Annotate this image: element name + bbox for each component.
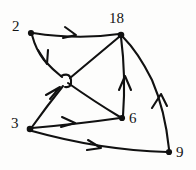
node-label-3: 3 bbox=[11, 116, 19, 131]
node-label-6: 6 bbox=[129, 111, 137, 126]
edge-3-junction bbox=[32, 86, 63, 127]
node-dot-3[interactable] bbox=[27, 126, 34, 133]
node-dot-6[interactable] bbox=[119, 115, 125, 121]
directed-graph-figure: 2 18 3 6 9 bbox=[0, 0, 196, 170]
edge-layer bbox=[32, 33, 169, 152]
arrowhead-2-junction bbox=[38, 50, 48, 64]
edge-9-18 bbox=[123, 37, 169, 149]
node-dot-18[interactable] bbox=[118, 32, 125, 39]
node-label-9: 9 bbox=[176, 145, 184, 160]
arrowhead-layer bbox=[38, 27, 167, 150]
edge-junction-18 bbox=[70, 37, 119, 78]
node-dot-2[interactable] bbox=[28, 30, 34, 36]
node-dot-9[interactable] bbox=[166, 149, 172, 155]
graph-canvas bbox=[0, 0, 196, 170]
node-label-2: 2 bbox=[12, 19, 20, 34]
arrowhead-3-6 bbox=[61, 117, 75, 127]
node-label-18: 18 bbox=[109, 11, 124, 26]
edge-junction-6 bbox=[68, 83, 120, 117]
